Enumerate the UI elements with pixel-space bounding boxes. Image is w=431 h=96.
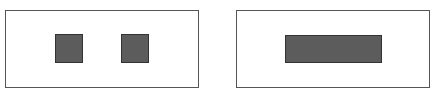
left-square-1 — [55, 34, 83, 63]
left-panel-frame — [5, 10, 199, 88]
right-bar — [285, 35, 382, 63]
left-square-2 — [121, 34, 149, 63]
